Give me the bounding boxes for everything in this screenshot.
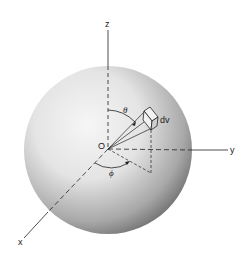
x-axis-label: x — [18, 237, 23, 247]
volume-element-label: dv — [160, 115, 170, 125]
z-axis-label: z — [105, 19, 110, 29]
phi-label: ϕ — [109, 168, 114, 178]
diagram-canvas: z y x O θ ϕ dv — [0, 0, 252, 262]
origin-label: O — [98, 141, 105, 151]
y-axis-label: y — [230, 145, 235, 155]
theta-label: θ — [123, 105, 128, 115]
